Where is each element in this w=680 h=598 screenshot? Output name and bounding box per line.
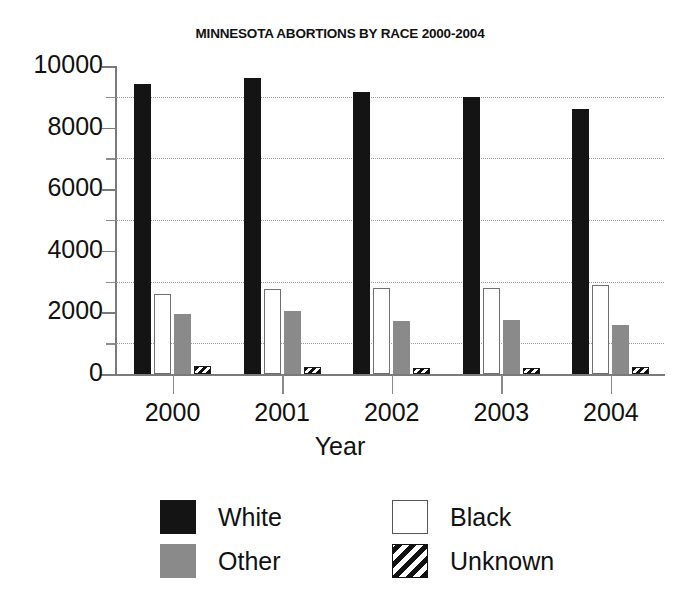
bar-black-2003 — [483, 288, 500, 374]
x-axis-tick — [282, 375, 284, 394]
bar-other-2000 — [174, 314, 191, 374]
y-axis-minor-tick — [106, 220, 115, 221]
y-axis-label: 10000 — [3, 52, 103, 77]
x-axis-line — [100, 374, 665, 376]
legend-item-white: White — [160, 500, 282, 534]
legend-item-black: Black — [392, 500, 511, 534]
bar-unknown-2000 — [194, 366, 211, 374]
bar-white-2000 — [134, 84, 151, 374]
bar-white-2002 — [353, 92, 370, 374]
bar-other-2003 — [503, 320, 520, 374]
legend-item-other: Other — [160, 544, 281, 578]
y-axis-label: 8000 — [3, 114, 103, 139]
y-axis-minor-tick — [106, 343, 115, 344]
legend-label: Other — [218, 547, 281, 576]
bar-unknown-2004 — [632, 367, 649, 374]
unknown-swatch-icon — [392, 544, 428, 578]
bar-white-2003 — [463, 97, 480, 374]
bar-white-2004 — [572, 109, 589, 374]
chart-title: MINNESOTA ABORTIONS BY RACE 2000-2004 — [0, 26, 680, 41]
y-axis-label: 0 — [3, 360, 103, 385]
x-axis-tick — [392, 375, 394, 394]
y-axis-label: 4000 — [3, 237, 103, 262]
plot-area — [116, 66, 664, 374]
legend-label: Unknown — [450, 547, 554, 576]
y-axis-minor-tick — [106, 282, 115, 283]
bar-other-2004 — [612, 325, 629, 374]
other-swatch-icon — [160, 544, 196, 578]
x-axis-label-2003: 2003 — [451, 398, 551, 427]
y-axis-label: 6000 — [3, 175, 103, 200]
bar-unknown-2001 — [304, 367, 321, 374]
legend-label: White — [218, 503, 282, 532]
y-axis-tick — [102, 312, 115, 314]
y-axis-minor-tick — [106, 158, 115, 159]
x-axis-tick — [173, 375, 175, 394]
bar-chart: MINNESOTA ABORTIONS BY RACE 2000-2004 02… — [0, 0, 680, 598]
x-axis-label-2000: 2000 — [123, 398, 223, 427]
bar-black-2002 — [373, 288, 390, 374]
y-axis-tick — [102, 128, 115, 130]
y-axis-tick — [102, 251, 115, 253]
y-axis-tick — [102, 374, 115, 376]
y-axis-label: 2000 — [3, 298, 103, 323]
bar-black-2001 — [264, 289, 281, 374]
bar-black-2004 — [592, 285, 609, 374]
y-axis-tick — [102, 189, 115, 191]
bar-unknown-2002 — [413, 368, 430, 374]
bar-unknown-2003 — [523, 368, 540, 374]
bar-black-2000 — [154, 294, 171, 374]
x-axis-tick — [501, 375, 503, 394]
x-axis-title: Year — [0, 432, 680, 461]
x-axis-label-2001: 2001 — [232, 398, 332, 427]
bar-other-2001 — [284, 311, 301, 374]
bar-other-2002 — [393, 321, 410, 374]
y-axis-tick — [102, 66, 115, 68]
black-swatch-icon — [392, 500, 428, 534]
legend-label: Black — [450, 503, 511, 532]
x-axis-label-2002: 2002 — [342, 398, 442, 427]
chart-legend: WhiteBlackOtherUnknown — [0, 496, 680, 588]
x-axis-label-2004: 2004 — [561, 398, 661, 427]
legend-item-unknown: Unknown — [392, 544, 554, 578]
x-axis-tick — [611, 375, 613, 394]
y-axis-minor-tick — [106, 97, 115, 98]
bar-white-2001 — [244, 78, 261, 374]
gridline — [116, 97, 664, 98]
white-swatch-icon — [160, 500, 196, 534]
